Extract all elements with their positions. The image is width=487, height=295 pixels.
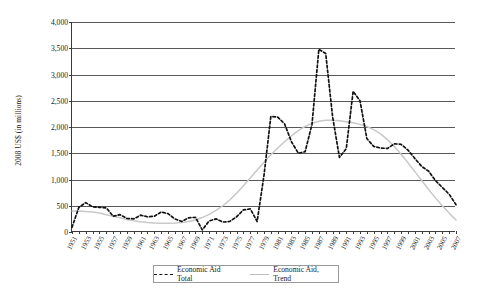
x-tick-label: 1955 bbox=[93, 235, 107, 251]
x-tick-mark bbox=[223, 231, 224, 234]
x-tick-mark bbox=[243, 231, 244, 234]
y-tick-label: 1,500 bbox=[51, 149, 68, 158]
x-tick-mark bbox=[202, 231, 203, 234]
x-tick-label: 1981 bbox=[271, 235, 285, 251]
x-tick-label: 1991 bbox=[340, 235, 354, 251]
y-tick-label: 3,000 bbox=[51, 70, 68, 79]
x-tick-mark bbox=[381, 231, 382, 234]
economic-aid-chart: 2008 US$ (in millions) 05001,0001,5002,0… bbox=[0, 0, 487, 295]
x-tick-mark bbox=[429, 231, 430, 234]
legend-item-economic-aid-total: Economic Aid Total bbox=[154, 265, 237, 283]
x-tick-label: 1961 bbox=[134, 235, 148, 251]
x-tick-mark bbox=[141, 231, 142, 234]
x-tick-mark bbox=[298, 231, 299, 234]
x-tick-label: 1977 bbox=[244, 235, 258, 251]
legend-item-economic-aid-trend: Economic Aid, Trend bbox=[250, 265, 338, 283]
x-tick-label: 1953 bbox=[79, 235, 93, 251]
x-tick-mark bbox=[79, 231, 80, 234]
x-tick-mark bbox=[401, 231, 402, 234]
x-tick-mark bbox=[435, 231, 436, 234]
x-tick-mark bbox=[127, 231, 128, 234]
x-tick-mark bbox=[408, 231, 409, 234]
x-tick-label: 1965 bbox=[161, 235, 175, 251]
x-tick-label: 1987 bbox=[312, 235, 326, 251]
x-tick-mark bbox=[134, 231, 135, 234]
y-tick-label: 2,500 bbox=[51, 96, 68, 105]
x-tick-mark bbox=[339, 231, 340, 234]
x-tick-mark bbox=[168, 231, 169, 234]
x-tick-mark bbox=[99, 231, 100, 234]
y-tick-label: 3,500 bbox=[51, 44, 68, 53]
x-tick-mark bbox=[209, 231, 210, 234]
x-tick-mark bbox=[106, 231, 107, 234]
x-tick-label: 1967 bbox=[175, 235, 189, 251]
x-tick-label: 1963 bbox=[148, 235, 162, 251]
x-tick-mark bbox=[394, 231, 395, 234]
y-tick-label: 2,000 bbox=[51, 123, 68, 132]
x-tick-label: 1979 bbox=[257, 235, 271, 251]
x-tick-label: 1973 bbox=[216, 235, 230, 251]
x-tick-mark bbox=[360, 231, 361, 234]
x-tick-label: 2001 bbox=[408, 235, 422, 251]
y-tick-label: 500 bbox=[57, 201, 68, 210]
legend-label: Economic Aid Total bbox=[177, 265, 238, 283]
x-tick-mark bbox=[113, 231, 114, 234]
x-tick-mark bbox=[250, 231, 251, 234]
x-tick-mark bbox=[353, 231, 354, 234]
x-tick-mark bbox=[456, 231, 457, 234]
x-tick-mark bbox=[264, 231, 265, 234]
y-tick-label: 4,000 bbox=[51, 18, 68, 27]
x-tick-label: 1999 bbox=[394, 235, 408, 251]
x-tick-label: 1983 bbox=[285, 235, 299, 251]
x-tick-label: 1989 bbox=[326, 235, 340, 251]
x-tick-mark bbox=[305, 231, 306, 234]
x-tick-mark bbox=[442, 231, 443, 234]
chart-legend: Economic Aid Total Economic Aid, Trend bbox=[153, 265, 339, 283]
x-tick-label: 2003 bbox=[422, 235, 436, 251]
x-tick-mark bbox=[230, 231, 231, 234]
x-tick-mark bbox=[449, 231, 450, 234]
x-tick-mark bbox=[161, 231, 162, 234]
x-tick-label: 1993 bbox=[353, 235, 367, 251]
x-tick-mark bbox=[285, 231, 286, 234]
x-tick-label: 1969 bbox=[189, 235, 203, 251]
x-tick-label: 1971 bbox=[202, 235, 216, 251]
x-tick-mark bbox=[271, 231, 272, 234]
x-tick-label: 1997 bbox=[381, 235, 395, 251]
x-tick-mark bbox=[415, 231, 416, 234]
x-tick-mark bbox=[312, 231, 313, 234]
x-tick-mark bbox=[189, 231, 190, 234]
x-tick-mark bbox=[175, 231, 176, 234]
x-tick-mark bbox=[257, 231, 258, 234]
x-tick-label: 2007 bbox=[449, 235, 463, 251]
x-tick-label: 1995 bbox=[367, 235, 381, 251]
x-tick-mark bbox=[387, 231, 388, 234]
dashed-line-swatch-icon bbox=[154, 274, 173, 275]
x-tick-mark bbox=[120, 231, 121, 234]
x-tick-mark bbox=[195, 231, 196, 234]
series-line bbox=[72, 49, 456, 230]
x-tick-mark bbox=[367, 231, 368, 234]
plot-area: 05001,0001,5002,0002,5003,0003,5004,000 … bbox=[71, 22, 455, 232]
x-tick-label: 2005 bbox=[436, 235, 450, 251]
x-tick-mark bbox=[291, 231, 292, 234]
x-tick-mark bbox=[216, 231, 217, 234]
x-tick-mark bbox=[333, 231, 334, 234]
x-tick-mark bbox=[326, 231, 327, 234]
y-axis-title: 2008 US$ (in millions) bbox=[10, 50, 26, 210]
solid-line-swatch-icon bbox=[250, 274, 269, 275]
x-tick-mark bbox=[346, 231, 347, 234]
x-tick-label: 1951 bbox=[65, 235, 79, 251]
x-tick-label: 1959 bbox=[120, 235, 134, 251]
series-layer bbox=[72, 22, 456, 232]
legend-label: Economic Aid, Trend bbox=[273, 265, 338, 283]
x-tick-mark bbox=[422, 231, 423, 234]
x-tick-mark bbox=[319, 231, 320, 234]
x-tick-label: 1975 bbox=[230, 235, 244, 251]
x-tick-mark bbox=[154, 231, 155, 234]
x-tick-mark bbox=[374, 231, 375, 234]
x-tick-mark bbox=[72, 231, 73, 234]
x-tick-mark bbox=[147, 231, 148, 234]
x-tick-mark bbox=[86, 231, 87, 234]
y-axis-title-text: 2008 US$ (in millions) bbox=[14, 95, 23, 166]
